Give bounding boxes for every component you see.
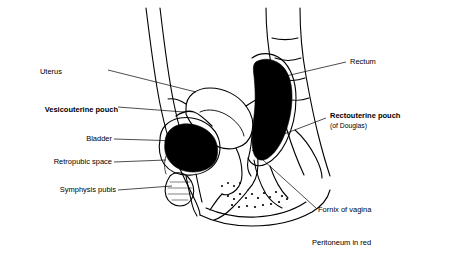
label-peritoneum-in-red-text: Peritoneum in red xyxy=(312,238,371,247)
sacral-segment-line-2 xyxy=(275,58,301,60)
sacral-segment-line-1 xyxy=(272,38,298,40)
urethra-2 xyxy=(196,174,202,202)
label-retropubic-space-text: Retropubic space xyxy=(54,157,112,166)
label-rectouterine-pouch-text: Rectouterine pouch xyxy=(330,111,400,120)
symphysis-pubis-hatch xyxy=(168,182,192,200)
label-vesicouterine-pouch-text: Vesicouterine pouch xyxy=(45,105,118,114)
sacrum-posterior-outline xyxy=(300,8,330,176)
label-fornix-of-vagina-text: Fornix of vagina xyxy=(318,205,371,214)
leader-rectum xyxy=(286,62,346,76)
label-uterus-text: Uterus xyxy=(40,67,62,76)
label-uterus: Uterus xyxy=(20,68,62,77)
label-retropubic-space: Retropubic space xyxy=(28,158,112,167)
label-bladder: Bladder xyxy=(60,135,112,144)
label-bladder-text: Bladder xyxy=(86,134,112,143)
leader-retropubic xyxy=(114,160,166,162)
perineum-inner-line xyxy=(206,202,306,217)
label-symphysis-pubis: Symphysis pubis xyxy=(32,186,116,195)
label-rectouterine-pouch-sub: (of Douglas) xyxy=(330,122,367,130)
label-rectum: Rectum xyxy=(350,58,376,67)
leader-fornix xyxy=(252,150,316,208)
label-rectouterine-pouch: Rectouterine pouch xyxy=(330,112,400,121)
anal-canal-2 xyxy=(270,166,288,198)
label-peritoneum-in-red: Peritoneum in red xyxy=(312,239,371,248)
label-symphysis-pubis-text: Symphysis pubis xyxy=(60,185,116,194)
cervix-outline xyxy=(222,148,242,195)
pelvic-floor-outline xyxy=(200,190,330,226)
rectum-filled xyxy=(252,59,292,160)
label-vesicouterine-pouch: Vesicouterine pouch xyxy=(10,106,118,115)
uterine-tube xyxy=(168,99,186,104)
vagina-anterior-wall xyxy=(210,194,222,210)
leader-uterus xyxy=(108,70,196,92)
label-rectouterine-pouch-sub-text: (of Douglas) xyxy=(330,122,367,129)
anatomy-diagram xyxy=(0,0,453,261)
leader-lines xyxy=(0,0,346,208)
coccyx-line xyxy=(295,130,322,178)
leader-vesicouterine xyxy=(118,107,184,112)
figure-container: Uterus Vesicouterine pouch Bladder Retro… xyxy=(0,0,453,261)
label-fornix-of-vagina: Fornix of vagina xyxy=(318,206,371,215)
leader-symphysis xyxy=(118,186,172,190)
bladder-filled xyxy=(165,124,218,172)
label-rectum-text: Rectum xyxy=(350,57,376,66)
perineal-stipple xyxy=(221,182,288,208)
diagram-outlines xyxy=(146,8,330,226)
